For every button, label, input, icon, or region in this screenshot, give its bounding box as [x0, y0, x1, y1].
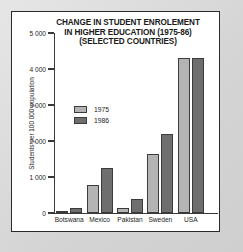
x-axis-line	[54, 213, 218, 214]
chart-screenshot: CHANGE IN STUDENT ENROLEMENT IN HIGHER E…	[0, 0, 243, 252]
category-label-botswana: Botswana	[54, 216, 84, 223]
bar-group-sweden	[145, 33, 175, 213]
bar-group-usa	[176, 33, 206, 213]
y-tick-label-4000: 4 000	[22, 66, 46, 73]
bar-usa-1975	[178, 58, 190, 213]
y-tick-label-1000: 1 000	[22, 174, 46, 181]
category-label-mexico: Mexico	[84, 216, 114, 223]
category-label-sweden: Sweden	[145, 216, 175, 223]
y-tick-label-0: 0	[22, 210, 46, 217]
bar-mexico-1975	[87, 185, 99, 213]
chart-panel: CHANGE IN STUDENT ENROLEMENT IN HIGHER E…	[11, 11, 220, 232]
legend-label-1975: 1975	[94, 106, 109, 113]
legend-item-1975: 1975	[74, 104, 109, 115]
legend-swatch-1975	[74, 106, 87, 114]
bar-mexico-1986	[101, 168, 113, 213]
y-axis-title: Students per 100 000 population	[28, 64, 35, 184]
category-label-usa: USA	[176, 216, 206, 223]
bar-botswana-1986	[70, 208, 82, 213]
legend-label-1986: 1986	[94, 117, 109, 124]
legend-swatch-1986	[74, 117, 87, 125]
y-tick-label-5000: 5 000	[22, 30, 46, 37]
y-tick-label-2000: 2 000	[22, 138, 46, 145]
bar-pakistan-1975	[117, 208, 129, 213]
chart-legend: 1975 1986	[74, 104, 109, 126]
bar-usa-1986	[192, 58, 204, 213]
legend-item-1986: 1986	[74, 115, 109, 126]
y-tick-label-3000: 3 000	[22, 102, 46, 109]
chart-title-line-1: CHANGE IN STUDENT ENROLEMENT	[40, 18, 216, 28]
bar-group-pakistan	[115, 33, 145, 213]
category-label-pakistan: Pakistan	[115, 216, 145, 223]
bar-sweden-1986	[161, 134, 173, 213]
bar-sweden-1975	[147, 154, 159, 213]
bar-botswana-1975	[56, 211, 68, 214]
bar-pakistan-1986	[131, 199, 143, 213]
